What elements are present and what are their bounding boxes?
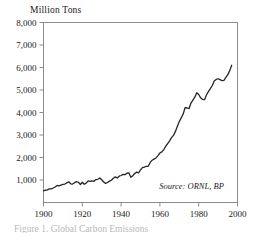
y-axis-tick-label: 6,000 [16,63,37,73]
chart-plot: 1,0002,0003,0004,0005,0006,0007,0008,000… [0,0,260,233]
y-axis-tick-label: 2,000 [16,153,37,163]
x-axis-tick-group: 190019201940196019802000 [35,203,248,219]
x-axis-tick-label: 1980 [190,209,209,219]
x-axis-tick-label: 2000 [229,209,248,219]
y-axis-tick-label: 8,000 [16,18,37,28]
source-annotation: Source: ORNL, BP [159,181,224,191]
y-axis-tick-label: 7,000 [16,40,37,50]
y-axis-tick-group: 1,0002,0003,0004,0005,0006,0007,0008,000 [16,18,43,186]
plot-frame [44,23,238,203]
y-axis-tick-label: 1,000 [16,175,37,185]
x-axis-tick-label: 1900 [35,209,54,219]
figure-container: Million Tons 1,0002,0003,0004,0005,0006,… [0,0,260,233]
y-axis-tick-label: 4,000 [16,108,37,118]
x-axis-tick-label: 1920 [73,209,92,219]
y-axis-tick-label: 3,000 [16,130,37,140]
data-series-line [44,65,232,191]
x-axis-tick-label: 1960 [151,209,170,219]
figure-caption: Figure 1. Global Carbon Emissions [14,224,258,233]
y-axis-tick-label: 5,000 [16,85,37,95]
x-axis-tick-label: 1940 [112,209,131,219]
